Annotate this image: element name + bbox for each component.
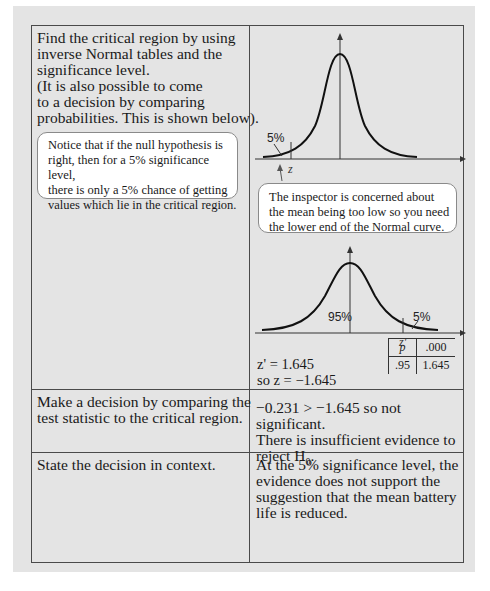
text-line: the lower end of the Normal curve. — [269, 220, 456, 235]
text-line: The inspector is concerned about — [269, 190, 456, 205]
text-line: −0.231 > −1.645 so not significant. — [256, 400, 463, 432]
note-callout-inspector: The inspector is concerned about the mea… — [258, 183, 457, 233]
hypothesis-test-table: Find the critical region by using invers… — [31, 25, 464, 563]
text-line: suggestion that the mean battery — [256, 489, 458, 505]
text-line: there is only a 5% chance of getting — [48, 183, 237, 198]
text-line: State the decision in context. — [37, 457, 216, 473]
text-line: to a decision by comparing — [37, 94, 259, 110]
normal-curve-lower-tail: 5% z — [250, 26, 464, 166]
critical-value-result: z' = 1.645 so z = −1.645 — [257, 356, 336, 388]
step-decision-text: Make a decision by comparing the test st… — [37, 394, 251, 426]
text-line: probabilities. This is shown below). — [37, 110, 259, 126]
text-line: values which lie in the critical region. — [48, 198, 237, 213]
body-percent-label: 95% — [328, 310, 352, 324]
text-line: (It is also possible to come — [37, 78, 259, 94]
normal-curve-upper-tail: 95% 5% z' — [250, 241, 464, 341]
table-cell: 1.645 — [417, 357, 456, 375]
tail-percent-label: 5% — [267, 131, 285, 145]
inverse-normal-lookup-table: p .000 .95 1.645 — [388, 338, 455, 374]
text-line: evidence does not support the — [256, 473, 458, 489]
text-line: significance level. — [37, 62, 259, 78]
step-context-text: State the decision in context. — [37, 457, 216, 473]
text-line: life is reduced. — [256, 505, 458, 521]
text-line: At the 5% significance level, the — [256, 457, 458, 473]
step-critical-region-text: Find the critical region by using invers… — [37, 30, 259, 126]
text-line: test statistic to the critical region. — [37, 410, 251, 426]
context-conclusion-text: At the 5% significance level, the eviden… — [256, 457, 458, 521]
text-line: Notice that if the null hypothesis is — [48, 138, 237, 153]
text-line: There is insufficient evidence to — [256, 432, 463, 448]
table-cell: .95 — [389, 357, 417, 375]
table-header-cell: p — [389, 339, 417, 357]
text-line: the mean being too low so you need — [269, 205, 456, 220]
text-line: inverse Normal tables and the — [37, 46, 259, 62]
text-line: so z = −1.645 — [257, 372, 336, 388]
text-line: z' = 1.645 — [257, 356, 336, 372]
critical-z-label: z — [287, 162, 293, 176]
tail-percent-label: 5% — [413, 310, 431, 324]
text-line: Make a decision by comparing the — [37, 394, 251, 410]
table-header-cell: .000 — [417, 339, 456, 357]
row-divider-1 — [32, 389, 463, 390]
text-line: right, then for a 5% significance level, — [48, 153, 237, 183]
note-callout-significance: Notice that if the null hypothesis is ri… — [37, 132, 238, 199]
text-line: Find the critical region by using — [37, 30, 259, 46]
